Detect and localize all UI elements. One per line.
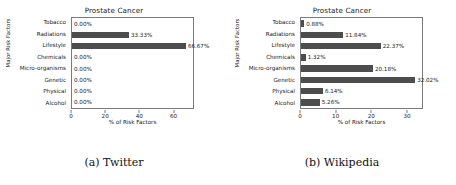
bar [301, 32, 343, 39]
bar-row: 0.00% [72, 74, 193, 85]
bar-row: 0.00% [72, 86, 193, 97]
bar-row: 0.00% [72, 63, 193, 74]
bar-value-label: 66.67% [188, 43, 209, 49]
bar-row: 33.33% [72, 29, 193, 40]
plot-area: 0.00% 33.33% 66.67% 0.00% 0.00% 0.00% 0.… [71, 17, 194, 109]
bar-value-label: 0.00% [74, 77, 92, 83]
chart-title: Prostate Cancer [228, 6, 456, 15]
bar [72, 32, 129, 39]
bar-value-label: 0.00% [74, 21, 92, 27]
bar-value-label: 0.00% [74, 54, 92, 60]
bar-value-label: 0.00% [74, 66, 92, 72]
bar [301, 88, 323, 95]
y-tick-label: Lifestyle [232, 40, 295, 52]
y-tick-label: Micro-organisms [3, 63, 66, 75]
bar [301, 99, 320, 106]
bar-row: 0.00% [72, 52, 193, 63]
y-tick-label: Chemicals [232, 52, 295, 64]
bar-row: 0.00% [72, 97, 193, 108]
y-tick-labels: Tobacco Radiations Lifestyle Chemicals M… [3, 17, 69, 109]
y-tick-label: Physical [3, 86, 66, 98]
y-tick-label: Lifestyle [3, 40, 66, 52]
bar-rows: 0.00% 33.33% 66.67% 0.00% 0.00% 0.00% 0.… [72, 18, 193, 108]
bar [301, 43, 381, 50]
plot-area: 0.88% 11.84% 22.37% 1.32% 20.18% 32.02% … [300, 17, 423, 109]
subfigure-wikipedia: Prostate Cancer Major Risk Factors Tobac… [228, 0, 456, 185]
x-axis-title: % of Risk Factors [71, 119, 194, 125]
bar-rows: 0.88% 11.84% 22.37% 1.32% 20.18% 32.02% … [301, 18, 422, 108]
bar-row: 22.37% [301, 41, 422, 52]
y-tick-label: Micro-organisms [232, 63, 295, 75]
bar [301, 77, 415, 84]
subfigure-caption: (b) Wikipedia [228, 156, 456, 169]
subfigure-caption: (a) Twitter [0, 156, 228, 169]
bar [301, 54, 306, 61]
bar-value-label: 0.00% [74, 88, 92, 94]
bar-value-label: 11.84% [345, 32, 366, 38]
bar-value-label: 5.26% [322, 99, 340, 105]
y-tick-label: Radiations [3, 29, 66, 41]
chart-title: Prostate Cancer [0, 6, 228, 15]
bar [301, 65, 373, 72]
x-axis-title: % of Risk Factors [300, 119, 423, 125]
y-tick-label: Genetic [232, 75, 295, 87]
bar-value-label: 0.88% [306, 21, 324, 27]
bar-row: 0.88% [301, 18, 422, 29]
y-tick-label: Chemicals [3, 52, 66, 64]
bar-value-label: 1.32% [308, 54, 326, 60]
bar-value-label: 32.02% [417, 77, 438, 83]
bar-row: 11.84% [301, 29, 422, 40]
figure-row: Prostate Cancer Major Risk Factors Tobac… [0, 0, 456, 185]
y-tick-labels: Tobacco Radiations Lifestyle Chemicals M… [232, 17, 298, 109]
bar-value-label: 33.33% [131, 32, 152, 38]
y-tick-label: Tobacco [232, 17, 295, 29]
bar-row: 32.02% [301, 74, 422, 85]
bar [72, 43, 186, 50]
bar-row: 1.32% [301, 52, 422, 63]
y-tick-label: Alcohol [232, 98, 295, 110]
bar-value-label: 6.14% [325, 88, 343, 94]
bar-row: 20.18% [301, 63, 422, 74]
bar-value-label: 20.18% [375, 66, 396, 72]
subfigure-twitter: Prostate Cancer Major Risk Factors Tobac… [0, 0, 228, 185]
bar-value-label: 0.00% [74, 99, 92, 105]
bar-value-label: 22.37% [383, 43, 404, 49]
y-tick-label: Alcohol [3, 98, 66, 110]
y-tick-label: Tobacco [3, 17, 66, 29]
bar [301, 20, 304, 27]
chart-wikipedia: Prostate Cancer Major Risk Factors Tobac… [228, 0, 456, 145]
bar-row: 0.00% [72, 18, 193, 29]
y-tick-label: Genetic [3, 75, 66, 87]
chart-twitter: Prostate Cancer Major Risk Factors Tobac… [0, 0, 228, 145]
bar-row: 66.67% [72, 41, 193, 52]
y-tick-label: Radiations [232, 29, 295, 41]
y-tick-label: Physical [232, 86, 295, 98]
bar-row: 6.14% [301, 86, 422, 97]
bar-row: 5.26% [301, 97, 422, 108]
